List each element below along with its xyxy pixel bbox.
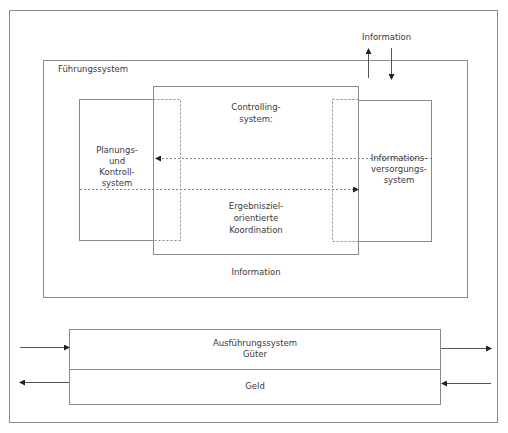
fuehrungssystem-label: Führungssystem: [58, 64, 128, 75]
planung-line4: system: [79, 178, 155, 189]
controlling-line1: Controlling-: [180, 101, 332, 113]
planung-line3: Kontroll-: [79, 167, 155, 178]
info-line1: Informations-: [362, 153, 436, 164]
ausfuehrung-line2: Güter: [70, 349, 440, 360]
controlling-line2: system:: [180, 113, 332, 125]
controllingsystem-label: Controlling- system:: [180, 101, 332, 125]
coord-line3: Koordination: [180, 224, 332, 236]
planung-line2: und: [79, 156, 155, 167]
coord-line1: Ergebnisziel-: [180, 200, 332, 212]
top-information-label: Information: [362, 32, 411, 43]
koordination-label: Ergebnisziel- orientierte Koordination: [180, 200, 332, 236]
info-line3: system: [362, 175, 436, 186]
info-line2: versorgungs-: [362, 164, 436, 175]
ausfuehrungssystem-label: Ausführungssystem Güter: [70, 338, 440, 360]
geld-label: Geld: [70, 381, 440, 391]
coord-line2: orientierte: [180, 212, 332, 224]
planungssystem-label: Planungs- und Kontroll- system: [79, 145, 155, 189]
bottom-information-label: Information: [154, 267, 358, 277]
informationssystem-label: Informations- versorgungs- system: [362, 153, 436, 186]
ausfuehrung-line1: Ausführungssystem: [70, 338, 440, 349]
planung-line1: Planungs-: [79, 145, 155, 156]
